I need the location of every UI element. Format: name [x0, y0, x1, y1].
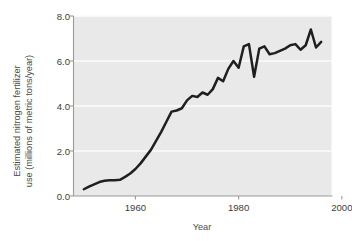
x-tick-label: 2000: [331, 202, 352, 213]
x-axis-title-text: Year: [193, 222, 212, 232]
x-tick-label: 1980: [228, 202, 249, 213]
x-tick-label: 1960: [125, 202, 146, 213]
